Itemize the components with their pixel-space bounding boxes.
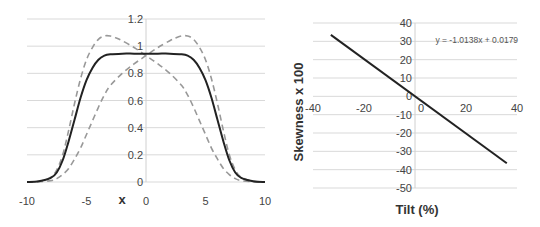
left-x-tick-label: -10 <box>19 195 35 207</box>
right-x-tick-labels: -40-2002040 <box>305 102 523 114</box>
right-x-tick-label: 0 <box>418 102 424 114</box>
left-chart: 00.20.40.60.811.2 -10-50510 x <box>19 13 271 207</box>
left-y-tick-labels: 00.20.40.60.811.2 <box>128 13 143 188</box>
right-x-axis-title: Tilt (%) <box>395 202 438 217</box>
right-y-tick-label: -40 <box>396 164 412 176</box>
right-chart: 403020100-10-20-30-40-50 -40-2002040 Ske… <box>291 17 523 217</box>
left-x-tick-label: 0 <box>143 195 149 207</box>
left-x-tick-label: 5 <box>202 195 208 207</box>
right-y-tick-label: -30 <box>396 145 412 157</box>
left-y-tick-label: 0.6 <box>128 95 143 107</box>
right-y-tick-label: 40 <box>400 17 412 29</box>
right-series <box>331 35 507 163</box>
right-y-axis-title: Skewness x 100 <box>291 62 306 161</box>
figure: 00.20.40.60.811.2 -10-50510 x 403020100-… <box>0 0 540 227</box>
right-y-tick-label: 20 <box>400 54 412 66</box>
right-y-tick-labels: 403020100-10-20-30-40-50 <box>396 17 412 194</box>
left-y-tick-label: 0.8 <box>128 67 143 79</box>
right-y-tick-label: -20 <box>396 127 412 139</box>
series-line-linear-fit <box>331 35 507 163</box>
right-x-tick-label: 40 <box>511 102 523 114</box>
right-x-tick-label: -40 <box>305 102 321 114</box>
left-y-tick-label: 0 <box>137 176 143 188</box>
right-y-tick-label: -50 <box>396 182 412 194</box>
left-y-tick-label: 0.4 <box>128 122 143 134</box>
left-y-tick-label: 1.2 <box>128 13 143 25</box>
right-y-tick-label: -10 <box>396 109 412 121</box>
trendline-equation: y = -1.0138x + 0.0179 <box>435 35 518 45</box>
right-x-tick-label: 20 <box>460 102 472 114</box>
left-y-tick-label: 0.2 <box>128 149 143 161</box>
right-y-tick-label: 10 <box>400 72 412 84</box>
right-y-tick-label: 30 <box>400 35 412 47</box>
left-x-axis-title: x <box>119 192 127 207</box>
left-x-tick-label: -5 <box>82 195 92 207</box>
right-x-tick-label: -20 <box>356 102 372 114</box>
left-x-tick-labels: -10-50510 <box>19 195 271 207</box>
left-y-tick-label: 1 <box>137 40 143 52</box>
left-x-tick-label: 10 <box>259 195 271 207</box>
